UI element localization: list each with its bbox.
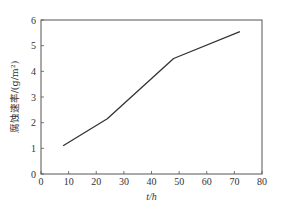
x-tick-label: 50 <box>174 176 184 187</box>
y-tick-label: 5 <box>31 40 36 51</box>
y-tick-label: 6 <box>31 15 36 26</box>
data-line <box>63 32 240 146</box>
x-tick-label: 30 <box>119 176 129 187</box>
y-axis-label: 腐蚀速率/(g/m²) <box>9 61 20 134</box>
y-tick-label: 4 <box>31 66 36 77</box>
y-tick-label: 2 <box>31 117 36 128</box>
x-tick-label: 40 <box>147 176 157 187</box>
y-tick-label: 0 <box>31 169 36 180</box>
x-tick-label: 0 <box>39 176 44 187</box>
x-axis-label: t/h <box>146 191 157 202</box>
x-tick-label: 10 <box>64 176 74 187</box>
x-tick-label: 80 <box>257 176 267 187</box>
plot-frame <box>41 20 262 174</box>
y-tick-label: 1 <box>31 143 36 154</box>
x-tick-label: 60 <box>202 176 212 187</box>
x-tick-label: 70 <box>229 176 239 187</box>
y-tick-label: 3 <box>31 92 36 103</box>
line-chart: 010203040506070800123456t/h腐蚀速率/(g/m²) <box>0 0 283 210</box>
x-tick-label: 20 <box>91 176 101 187</box>
